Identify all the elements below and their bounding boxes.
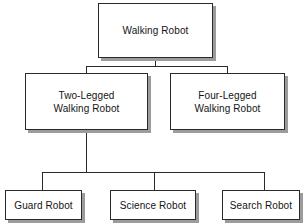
- node-science-robot[interactable]: Science Robot: [110, 190, 196, 220]
- connector-trunk-level2: [86, 130, 87, 173]
- node-label: Search Robot: [228, 199, 294, 212]
- node-label: Guard Robot: [12, 199, 74, 212]
- node-label: Science Robot: [118, 199, 188, 212]
- node-guard-robot[interactable]: Guard Robot: [5, 190, 82, 220]
- node-label: Four-Legged Walking Robot: [193, 89, 263, 115]
- connector-drop-search: [264, 172, 265, 191]
- node-label: Two-Legged Walking Robot: [52, 89, 122, 115]
- node-search-robot[interactable]: Search Robot: [222, 190, 300, 220]
- hierarchy-diagram: Walking Robot Two-Legged Walking Robot F…: [0, 0, 306, 224]
- connector-drop-science: [154, 172, 155, 191]
- node-walking-robot[interactable]: Walking Robot: [98, 3, 213, 58]
- node-four-legged-walking-robot[interactable]: Four-Legged Walking Robot: [170, 73, 285, 130]
- node-two-legged-walking-robot[interactable]: Two-Legged Walking Robot: [25, 73, 148, 130]
- node-label: Walking Robot: [121, 24, 191, 37]
- connector-bus-level2: [86, 66, 228, 67]
- connector-drop-guard: [42, 172, 43, 191]
